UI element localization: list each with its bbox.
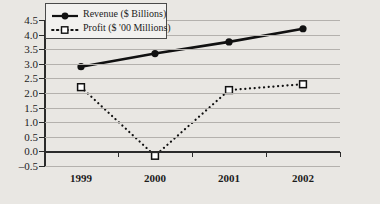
gridline (44, 49, 340, 50)
data-point-marker (152, 152, 159, 159)
y-axis-tick-label: 1.0 (6, 117, 38, 128)
chart-container: 4.54.03.53.02.52.01.51.00.50.0–0.5 19992… (0, 0, 380, 204)
y-axis-tick (39, 35, 45, 36)
y-axis-tick (39, 49, 45, 50)
y-axis-tick (39, 108, 45, 109)
x-axis-tick-label: 2002 (273, 172, 333, 184)
x-axis-tick-label: 2001 (199, 172, 259, 184)
x-axis-tick (340, 152, 341, 157)
chart-legend: Revenue ($ Billions) Profit ($ '00 Milli… (45, 3, 167, 39)
y-axis-tick (39, 64, 45, 65)
gridline (44, 93, 340, 94)
gridline (44, 78, 340, 79)
y-axis-labels: 4.54.03.53.02.52.01.51.00.50.0–0.5 (0, 20, 38, 167)
gridline (44, 64, 340, 65)
data-point-marker (299, 25, 306, 32)
x-axis-tick (118, 152, 119, 157)
legend-key-filled-circle-icon (50, 8, 80, 20)
y-axis-tick (39, 20, 45, 21)
y-axis-tick-label: 2.0 (6, 88, 38, 99)
x-axis-tick (266, 152, 267, 157)
series-line (81, 84, 303, 156)
y-axis-tick-label: –0.5 (6, 161, 38, 172)
legend-label-revenue: Revenue ($ Billions) (80, 8, 166, 20)
legend-item-profit: Profit ($ '00 Millions) (50, 21, 162, 35)
gridline (44, 122, 340, 123)
legend-key-open-square-icon (50, 22, 80, 34)
plot-area (44, 20, 340, 166)
y-axis-tick (39, 78, 45, 79)
data-point-marker (300, 81, 307, 88)
y-axis-tick (39, 151, 45, 152)
y-axis-tick-label: 4.5 (6, 15, 38, 26)
y-axis-tick-label: 3.0 (6, 59, 38, 70)
legend-item-revenue: Revenue ($ Billions) (50, 7, 162, 21)
y-axis-tick-label: 1.5 (6, 103, 38, 114)
data-point-marker (225, 38, 232, 45)
y-axis-tick-label: 0.0 (6, 146, 38, 157)
data-point-marker (78, 84, 85, 91)
y-axis-tick-label: 4.0 (6, 30, 38, 41)
y-axis-tick (39, 122, 45, 123)
y-axis-tick-label: 3.5 (6, 44, 38, 55)
x-axis-tick-label: 1999 (51, 172, 111, 184)
gridline (44, 108, 340, 109)
x-axis-tick (192, 152, 193, 157)
y-axis-tick (39, 93, 45, 94)
y-axis-tick (39, 166, 45, 167)
data-point-marker (151, 50, 158, 57)
y-axis-tick-label: 0.5 (6, 132, 38, 143)
y-axis-tick-label: 2.5 (6, 73, 38, 84)
gridline (44, 137, 340, 138)
legend-label-profit: Profit ($ '00 Millions) (80, 22, 171, 34)
y-axis-tick (39, 137, 45, 138)
gridline (44, 166, 340, 167)
x-axis-tick-label: 2000 (125, 172, 185, 184)
